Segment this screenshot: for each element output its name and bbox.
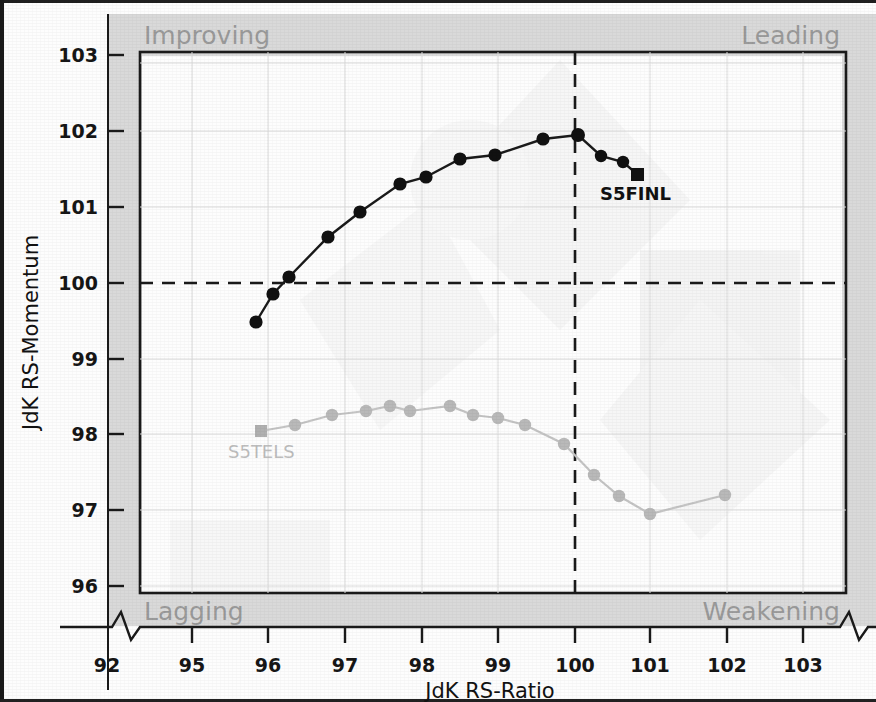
- rrg-chart: S5TELS S5FINL Improving: [0, 0, 876, 702]
- watermark-graphic: [170, 60, 830, 600]
- series-label-s5finl: S5FINL: [600, 183, 671, 204]
- quadrant-label-lagging: Lagging: [144, 597, 244, 626]
- x-tick-100: 100: [555, 654, 595, 676]
- x-tick-102: 102: [707, 654, 747, 676]
- series-s5tels-start-marker: [255, 425, 267, 437]
- quadrant-label-weakening: Weakening: [703, 597, 840, 626]
- scanned-chart-page: S5TELS S5FINL Improving: [0, 0, 876, 702]
- x-tick-98: 98: [409, 654, 435, 676]
- y-axis-title: JdK RS-Momentum: [19, 235, 43, 432]
- x-tick-96: 96: [255, 654, 281, 676]
- x-tick-95: 95: [179, 654, 205, 676]
- series-label-s5tels: S5TELS: [228, 441, 295, 462]
- x-axis-ticks: [192, 627, 803, 643]
- y-tick-103: 103: [58, 44, 98, 66]
- y-tick-97: 97: [72, 499, 98, 521]
- x-tick-101: 101: [630, 654, 670, 676]
- y-tick-102: 102: [58, 120, 98, 142]
- y-axis: 103 102 101 100 99 98 97 96 JdK RS-Momen…: [19, 14, 124, 690]
- x-axis-title: JdK RS-Ratio: [423, 679, 554, 702]
- y-tick-99: 99: [72, 348, 98, 370]
- y-tick-101: 101: [58, 196, 98, 218]
- x-tick-99: 99: [485, 654, 511, 676]
- quadrant-label-improving: Improving: [144, 21, 270, 50]
- y-tick-96: 96: [72, 575, 98, 597]
- series-s5finl-end-marker: [631, 168, 644, 181]
- x-tick-97: 97: [332, 654, 358, 676]
- y-tick-100: 100: [58, 272, 98, 294]
- x-tick-92: 92: [94, 654, 120, 676]
- x-tick-103: 103: [783, 654, 823, 676]
- y-tick-98: 98: [72, 423, 98, 445]
- quadrant-label-leading: Leading: [741, 21, 840, 50]
